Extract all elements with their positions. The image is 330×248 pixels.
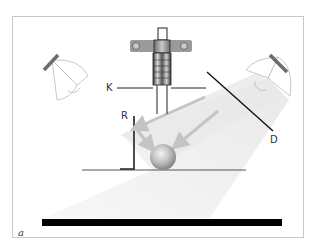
lighting-diagram <box>0 0 330 248</box>
mount-knob-right <box>181 43 188 50</box>
base-bar <box>42 219 282 226</box>
diffuser-label: D <box>270 135 278 145</box>
subject-sphere <box>150 144 176 170</box>
camera-label: K <box>106 83 113 93</box>
diagram-canvas: K R D a <box>0 0 330 248</box>
camera-lens <box>153 53 171 85</box>
reflector-label: R <box>121 111 128 121</box>
mount-knob-left <box>133 43 140 50</box>
camera-body <box>154 40 170 53</box>
panel-label: a <box>18 228 24 238</box>
